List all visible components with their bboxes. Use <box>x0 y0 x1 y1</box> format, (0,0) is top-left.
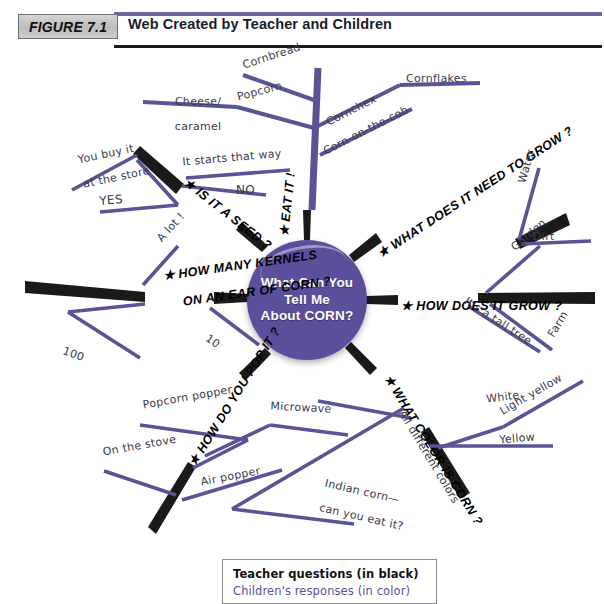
figure-title: Web Created by Teacher and Children <box>128 16 392 32</box>
figure-number-text: FIGURE 7.1 <box>29 19 107 35</box>
header-black-rule <box>114 45 602 48</box>
legend-children-responses: Children's responses (in color) <box>233 583 426 600</box>
central-topic-text: What Can You Tell Me About CORN? <box>255 275 360 324</box>
concept-web-canvas: .tline{stroke:#1a1a1a;stroke-linecap:but… <box>0 50 604 577</box>
legend-box: Teacher questions (in black) Children's … <box>222 559 437 604</box>
central-line-2: Tell Me <box>284 292 330 307</box>
central-topic-bubble: What Can You Tell Me About CORN? <box>247 240 367 360</box>
central-line-3: About CORN? <box>261 308 354 323</box>
child-line-eat-it-trunk <box>312 68 318 210</box>
teacher-bar-kernels <box>25 281 145 302</box>
legend-teacher-questions: Teacher questions (in black) <box>233 566 426 583</box>
teacher-bar-is-it-a-seed <box>133 146 184 194</box>
figure-number-badge: FIGURE 7.1 <box>18 14 118 39</box>
teacher-bar-how-does-it-grow <box>478 292 595 304</box>
teacher-bar-what-color <box>421 427 470 499</box>
central-line-1: What Can You <box>261 275 354 290</box>
